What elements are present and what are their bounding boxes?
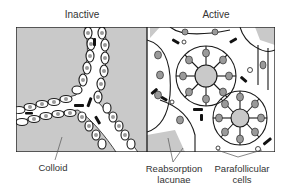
label-parafollicular-cells: Parafollicular cells: [207, 164, 277, 185]
label-parafollicular-cells-line2: cells: [207, 175, 277, 186]
label-reabsorption-lacunae: Reabsorption lacunae: [136, 164, 212, 185]
inactive-panel: [10, 27, 147, 155]
label-reabsorption-lacunae-line1: Reabsorption: [136, 164, 212, 175]
active-panel: [147, 27, 275, 152]
label-reabsorption-lacunae-line2: lacunae: [136, 175, 212, 186]
label-colloid: Colloid: [23, 163, 83, 174]
label-parafollicular-cells-line1: Parafollicular: [207, 164, 277, 175]
